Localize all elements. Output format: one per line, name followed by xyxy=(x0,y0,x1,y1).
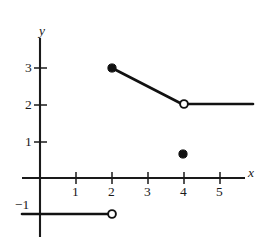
y-tick-label-neg1: −1 xyxy=(15,198,29,212)
y-tick-label-1: 1 xyxy=(25,135,32,149)
graph-figure: 1 2 3 4 5 3 2 1 −1 y x xyxy=(0,0,268,243)
point-open-4-2 xyxy=(180,100,188,108)
x-tick-label-1: 1 xyxy=(72,185,79,199)
y-tick-label-3: 3 xyxy=(25,61,32,75)
x-tick-label-3: 3 xyxy=(144,185,151,199)
y-tick-label-2: 2 xyxy=(25,98,32,112)
point-closed-isolated-4 xyxy=(179,150,187,158)
point-open-2-neg1 xyxy=(108,210,116,218)
x-tick-label-5: 5 xyxy=(216,185,223,199)
point-closed-2-3 xyxy=(108,64,116,72)
y-axis-label: y xyxy=(39,24,45,38)
x-tick-label-4: 4 xyxy=(180,185,187,199)
x-tick-label-2: 2 xyxy=(108,185,115,199)
curve-branch-segment xyxy=(112,68,182,104)
x-axis-label: x xyxy=(248,166,254,180)
